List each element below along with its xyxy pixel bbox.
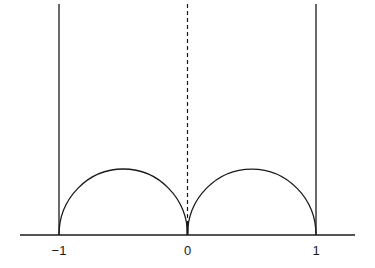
- semicircle-right: [188, 169, 317, 235]
- semicircle-left: [59, 169, 188, 235]
- tick-label-one: 1: [312, 243, 319, 258]
- diagram-canvas: −1 0 1: [0, 0, 375, 268]
- tick-label-minus-one: −1: [52, 243, 67, 258]
- tick-label-zero: 0: [184, 243, 191, 258]
